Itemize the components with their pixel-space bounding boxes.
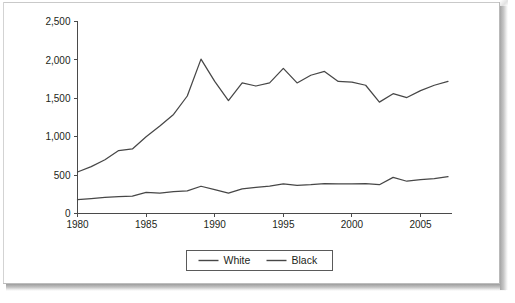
year-axis-tick-label: 1980 [66,219,89,230]
year-axis-tick-label: 1985 [135,219,158,230]
year-axis-tick-label: 2000 [341,219,364,230]
legend-label-white[interactable]: White [224,254,251,266]
legend-label-black[interactable]: Black [292,254,318,266]
year-axis-tick-label: 2005 [409,219,432,230]
year-axis-tick-label: 1990 [204,219,227,230]
value-axis-tick-label: 2,500 [45,16,70,27]
value-axis-tick-label: 2,000 [45,55,70,66]
chart-legend[interactable]: WhiteBlack [187,251,333,271]
series-line-white [78,59,449,172]
value-axis: 05001,0001,5002,0002,500 [45,16,77,219]
series-lines [78,59,449,200]
value-axis-tick-label: 1,000 [45,131,70,142]
value-axis-tick-label: 1,500 [45,93,70,104]
year-axis-tick-label: 1995 [272,219,295,230]
series-line-black [78,177,449,200]
chart-canvas: 05001,0001,5002,0002,500 198019851990199… [0,0,515,303]
value-axis-tick-label: 500 [54,170,71,181]
value-axis-tick-label: 0 [65,208,71,219]
year-axis: 198019851990199520002005 [66,214,452,231]
line-chart: 05001,0001,5002,0002,500 198019851990199… [0,0,515,303]
